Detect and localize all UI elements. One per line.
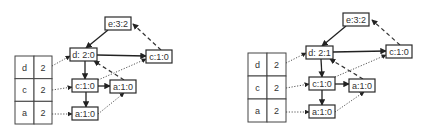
table-item-label: d [22,63,27,73]
tree-node-a_right: a:1:0 [110,80,136,93]
node-label: c:1:0 [389,47,409,57]
tree-node-e: e:3:2 [105,17,131,30]
tree-node-c_top: c:1:0 [146,50,172,63]
dotted-arrow [98,93,124,114]
table-count-label: 2 [40,108,45,118]
table-item-label: c [255,83,260,93]
node-label: e:3:2 [108,19,128,29]
table-count-label: 2 [274,60,279,70]
table-count-label: 2 [40,63,45,73]
table-item-label: a [22,108,27,118]
node-label: a:1:0 [113,82,133,92]
edges-layer [52,20,400,114]
node-label: c:1:0 [149,52,169,62]
dashed-arrow [330,59,363,79]
tree-node-a_right: a:1:0 [349,79,375,92]
node-label: e:3:2 [346,15,366,25]
table-count-label: 2 [40,85,45,95]
node-label: a:1:0 [352,81,372,91]
node-label: c:1:0 [312,79,332,89]
table-count-label: 2 [274,106,279,116]
dotted-arrow [52,87,72,90]
tree-node-c_mid: c:1:0 [309,77,335,90]
solid-arrow [86,30,108,48]
table-item-label: d [255,60,260,70]
solid-arrow [97,55,146,56]
dashed-arrow [372,20,400,45]
header-tables-layer: d2c2a2d2c2a2 [15,53,286,124]
dotted-arrow [335,92,364,112]
tree-node-a_bot: a:1:0 [309,105,335,118]
dotted-arrow [286,53,306,63]
table-item-label: a [255,106,260,116]
dotted-arrow [52,56,70,66]
solid-arrow [322,26,346,46]
diagram-canvas: d2c2a2d2c2a2 e:3:2d: 2:0c:1:0c:1:0a:1:0a… [0,0,432,136]
nodes-layer: e:3:2d: 2:0c:1:0c:1:0a:1:0a:1:0e:3:2d: 2… [70,13,412,120]
dashed-arrow [133,24,161,50]
solid-arrow [333,51,386,52]
solid-arrow [321,59,322,77]
node-label: d: 2:1 [308,48,331,58]
table-count-label: 2 [274,83,279,93]
node-label: a:1:0 [75,109,95,119]
node-label: c:1:0 [75,81,95,91]
fp-tree-diagram-pair: d2c2a2d2c2a2 e:3:2d: 2:0c:1:0c:1:0a:1:0a… [0,0,432,136]
node-label: a:1:0 [312,107,332,117]
table-item-label: c [22,85,27,95]
node-label: d: 2:0 [72,50,95,60]
tree-node-c_mid: c:1:0 [72,79,98,92]
header-table: d2c2a2 [248,53,286,122]
dotted-arrow [286,84,309,88]
header-table: d2c2a2 [15,56,52,124]
tree-node-e: e:3:2 [343,13,369,26]
tree-node-a_bot: a:1:0 [72,107,98,120]
tree-node-c_top: c:1:0 [386,45,412,58]
tree-node-d: d: 2:0 [70,48,97,61]
tree-node-d: d: 2:1 [306,46,333,59]
dotted-arrow [98,59,146,80]
